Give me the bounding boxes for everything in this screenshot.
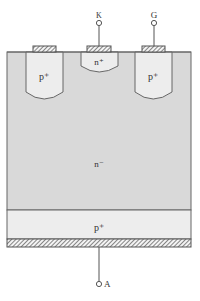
- n-drift-label: n⁻: [94, 159, 104, 169]
- metal-pad-cathode: [87, 46, 111, 52]
- gate-label: G: [151, 10, 158, 20]
- metal-pad-gate: [142, 46, 165, 52]
- metal-pad-left: [33, 46, 56, 52]
- anode-terminal-icon: [96, 281, 101, 286]
- n-cathode-label: n⁺: [94, 57, 104, 67]
- device-cross-section: K G A n⁺ p⁺ p⁺ n⁻ p⁺: [0, 0, 200, 301]
- anode-label: A: [104, 279, 111, 289]
- p-anode-label: p⁺: [94, 222, 104, 233]
- p-well-right-label: p⁺: [148, 71, 158, 82]
- cathode-label: K: [96, 11, 102, 20]
- cathode-terminal-icon: [96, 20, 101, 25]
- anode-metal: [7, 239, 191, 247]
- gate-terminal-icon: [151, 20, 156, 25]
- p-well-left-label: p⁺: [39, 71, 49, 82]
